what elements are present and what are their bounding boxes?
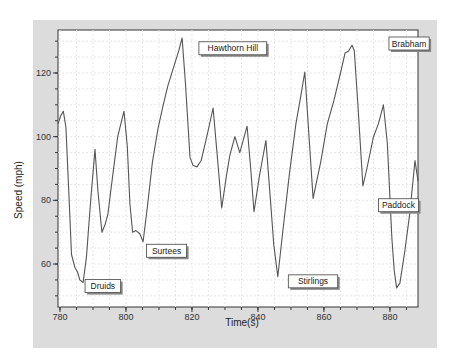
- annotation-text: Brabham: [392, 39, 427, 49]
- x-tick-label: 820: [184, 312, 199, 322]
- y-tick-label: 80: [41, 195, 51, 205]
- x-tick-label: 880: [382, 312, 397, 322]
- annotation-text: Stirlings: [298, 276, 328, 286]
- annotation-label: Paddock: [378, 199, 420, 214]
- speed-time-chart: 7808008208408608806080100120 DruidsSurte…: [0, 0, 452, 360]
- x-tick-label: 860: [316, 312, 331, 322]
- annotation-label: Surtees: [146, 244, 188, 259]
- annotation-text: Surtees: [152, 246, 181, 256]
- annotation-label: Brabham: [389, 37, 431, 52]
- annotation-text: Hawthorn Hill: [208, 43, 259, 53]
- annotation-label: Hawthorn Hill: [199, 42, 269, 57]
- x-axis-title: Time(s): [225, 317, 259, 328]
- y-tick-label: 100: [36, 132, 51, 142]
- annotation-text: Paddock: [382, 200, 416, 210]
- annotation-label: Druids: [85, 280, 123, 295]
- y-tick-label: 120: [36, 68, 51, 78]
- annotation-text: Druids: [91, 281, 116, 291]
- annotation-label: Stirlings: [288, 275, 339, 290]
- y-tick-label: 60: [41, 259, 51, 269]
- x-tick-label: 800: [118, 312, 133, 322]
- y-axis-title: Speed (mph): [13, 161, 24, 219]
- x-tick-label: 780: [52, 312, 67, 322]
